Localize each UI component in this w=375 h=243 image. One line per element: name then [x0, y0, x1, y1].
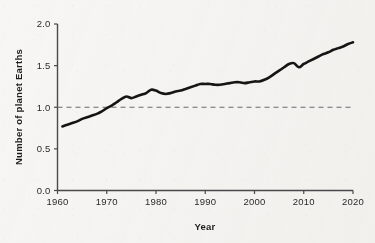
y-tick-label: 0.5 — [37, 143, 51, 154]
x-tick-label: 1970 — [96, 196, 118, 207]
x-tick-label: 1960 — [47, 196, 69, 207]
y-tick-label: 0.0 — [37, 185, 51, 196]
x-tick-label: 2010 — [293, 196, 315, 207]
chart-plot-area: 0.00.51.01.52.0 196019701980199020002010… — [0, 0, 375, 243]
x-tick-label: 1980 — [145, 196, 167, 207]
y-axis-ticks: 0.00.51.01.52.0 — [37, 18, 58, 196]
y-axis-title: Number of planet Earths — [13, 49, 24, 165]
x-axis-ticks: 1960197019801990200020102020 — [47, 191, 364, 208]
x-axis-title: Year — [194, 221, 215, 232]
y-tick-label: 1.0 — [37, 102, 51, 113]
x-tick-label: 2000 — [244, 196, 266, 207]
y-tick-label: 2.0 — [37, 18, 51, 29]
footprint-data-line — [62, 42, 353, 126]
ecological-footprint-chart: 0.00.51.01.52.0 196019701980199020002010… — [0, 0, 375, 243]
x-tick-label: 2020 — [342, 196, 364, 207]
x-tick-label: 1990 — [194, 196, 216, 207]
y-tick-label: 1.5 — [37, 60, 51, 71]
